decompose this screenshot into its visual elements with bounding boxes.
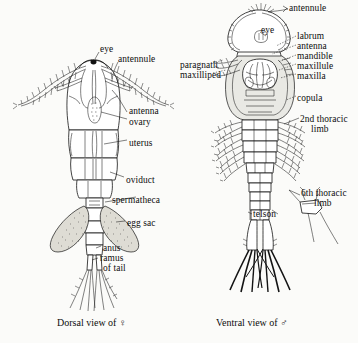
- label-male-antenna: antenna: [297, 41, 327, 51]
- label-male-copula: copula: [297, 93, 323, 103]
- label-male-maxilliped: maxilliped: [180, 70, 221, 80]
- lead-6th-thoracic: [289, 190, 300, 202]
- label-female-uterus: uterus: [129, 138, 153, 148]
- label-female-oviduct: oviduct: [126, 175, 155, 185]
- label-male-6th-thoracic-limb-cont: limb: [314, 198, 332, 208]
- anatomy-figure: eye antennule antenna ovary uterus ovidu…: [0, 0, 358, 343]
- lead-antennule-arrow: [283, 6, 288, 9]
- label-male-paragnath: paragnath: [180, 60, 218, 70]
- label-male-labrum: labrum: [297, 31, 324, 41]
- lead-antennule-m: [268, 9, 288, 12]
- label-male-2nd-thoracic-limb-cont: limb: [311, 124, 329, 134]
- label-female-ovary: ovary: [129, 117, 151, 127]
- female-eye-spot: [91, 60, 97, 65]
- caption-male: Ventral view of ♂: [216, 317, 288, 328]
- label-female-eye: eye: [100, 44, 113, 54]
- label-male-maxillule: maxillule: [297, 61, 333, 71]
- lead-2nd-thoracic: [284, 118, 299, 124]
- label-female-egg-sac: egg sac: [127, 218, 156, 228]
- label-male-2nd-thoracic-limb: 2nd thoracic: [300, 114, 348, 124]
- label-male-antennule: antennule: [289, 3, 326, 13]
- label-female-antennule: antennule: [118, 54, 155, 64]
- label-male-6th-thoracic-limb: 6th thoracic: [301, 188, 347, 198]
- label-female-anus: anus: [103, 243, 121, 253]
- label-male-telson: telson: [253, 209, 276, 219]
- label-male-maxilla: maxilla: [297, 71, 326, 81]
- label-male-eye: eye: [261, 25, 274, 35]
- caption-female: Dorsal view of ♀: [57, 317, 126, 328]
- label-female-of-tail: of tail: [103, 263, 126, 273]
- label-male-mandible: mandible: [297, 51, 333, 61]
- label-female-antenna: antenna: [129, 106, 159, 116]
- lead-eye: [95, 52, 99, 59]
- label-female-spermatheca: spermatheca: [112, 195, 160, 205]
- label-female-ramus: ramus: [100, 253, 123, 263]
